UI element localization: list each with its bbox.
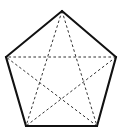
figure-canvas: [0, 0, 122, 136]
vertex-bottom-left: [25, 125, 27, 127]
vertex-left: [5, 56, 7, 58]
diagram-background: [0, 0, 122, 136]
pentagon-diagram: [0, 0, 122, 136]
vertex-right: [115, 56, 117, 58]
vertex-bottom-right: [96, 125, 98, 127]
vertex-apex: [61, 10, 63, 12]
